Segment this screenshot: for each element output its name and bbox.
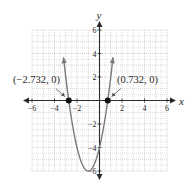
axes <box>23 21 176 180</box>
x-intercept-point <box>105 98 111 104</box>
x-tick-label: 2 <box>120 104 124 113</box>
x-axis-right-arrow-icon <box>170 98 176 104</box>
y-axis-up-arrow-icon <box>97 21 103 27</box>
parabola-chart: −6−4−2246642−2−4−6 (−2.732, 0)(0.732, 0)… <box>0 0 191 192</box>
y-tick-label: −2 <box>88 120 97 129</box>
x-tick-label: −4 <box>50 104 59 113</box>
x-tick-label: 6 <box>165 104 169 113</box>
y-tick-label: 4 <box>93 50 97 59</box>
x-tick-label: −2 <box>73 104 82 113</box>
y-tick-label: 2 <box>93 73 97 82</box>
x-tick-label: −6 <box>28 104 37 113</box>
intercept-label: (0.732, 0) <box>117 74 159 86</box>
y-axis-down-arrow-icon <box>97 174 103 180</box>
y-axis-label: y <box>96 9 102 21</box>
intercept-label: (−2.732, 0) <box>13 74 61 86</box>
x-axis-label: x <box>178 95 184 107</box>
x-intercept-point <box>66 98 72 104</box>
x-tick-label: 4 <box>143 104 147 113</box>
y-tick-label: 6 <box>93 26 97 35</box>
y-tick-label: −4 <box>88 144 97 153</box>
